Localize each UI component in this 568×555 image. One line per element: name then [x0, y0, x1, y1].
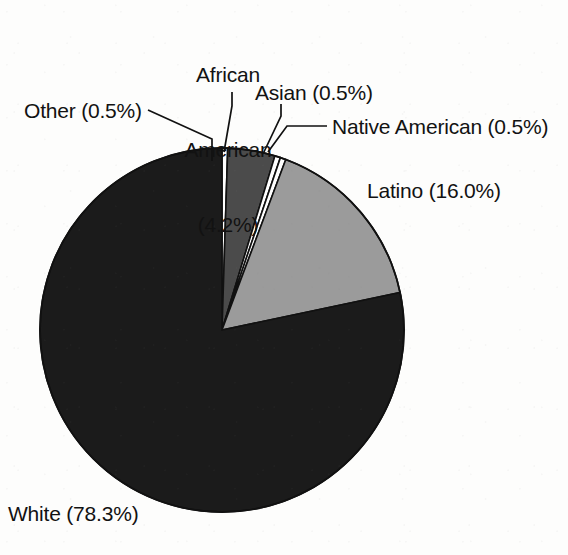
slice-label-african-american: African American (4.2%)	[148, 12, 308, 287]
pie-chart-figure: African American (4.2%) Asian (0.5%) Oth…	[0, 0, 568, 555]
slice-label-native-american: Native American (0.5%)	[332, 114, 548, 139]
slice-label-african-american-line2: American	[148, 137, 308, 162]
slice-label-african-american-line3: (4.2%)	[148, 212, 308, 237]
slice-label-asian: Asian (0.5%)	[255, 80, 373, 105]
slice-label-other: Other (0.5%)	[24, 98, 142, 123]
slice-label-white: White (78.3%)	[8, 501, 138, 526]
slice-label-latino: Latino (16.0%)	[367, 178, 501, 203]
